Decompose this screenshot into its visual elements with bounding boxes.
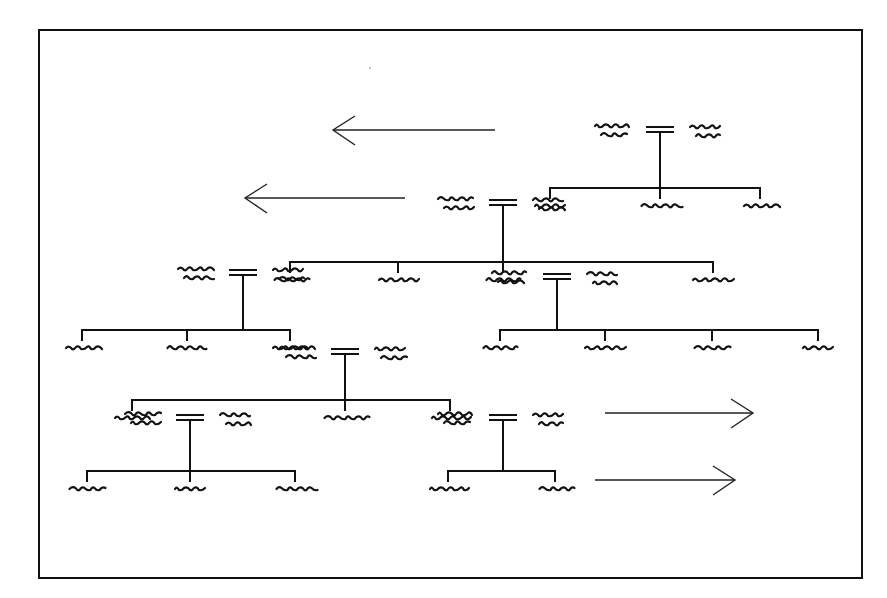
name-scribble	[492, 271, 526, 274]
name-scribble	[115, 416, 150, 419]
name-scribble	[696, 134, 720, 137]
name-scribble	[325, 416, 370, 419]
diagram-frame	[39, 30, 862, 578]
name-scribble	[533, 198, 563, 201]
name-scribble	[539, 207, 565, 210]
name-scribble	[286, 355, 316, 358]
name-scribble	[744, 204, 780, 207]
name-scribble	[587, 272, 617, 275]
family-6	[87, 415, 295, 481]
name-scribble	[484, 346, 518, 349]
name-scribble	[438, 412, 472, 415]
name-scribble	[277, 487, 318, 490]
tree-layer	[82, 127, 818, 481]
name-scribble	[690, 125, 720, 128]
name-scribble	[375, 347, 405, 350]
name-scribble	[601, 133, 627, 136]
genealogy-diagram	[0, 0, 887, 598]
name-scribble	[131, 421, 161, 424]
name-scribble	[539, 422, 563, 425]
name-scribble	[226, 422, 251, 425]
name-scribble	[70, 487, 106, 490]
name-scribble	[66, 346, 102, 349]
family-2	[290, 200, 713, 272]
name-scribble	[642, 204, 683, 207]
name-scribble	[803, 346, 833, 349]
name-scribble	[175, 487, 205, 490]
family-3	[82, 270, 290, 340]
arrow-left-icon	[245, 184, 405, 213]
name-scribble	[178, 267, 214, 270]
arrow-right-icon	[605, 399, 753, 428]
name-scribble	[381, 356, 407, 359]
name-scribble	[444, 421, 470, 424]
name-scribble	[438, 197, 473, 200]
name-scribble	[540, 487, 575, 490]
name-scribble	[273, 268, 303, 271]
name-scribble	[168, 346, 207, 349]
speck	[369, 67, 371, 69]
name-scribble	[487, 278, 521, 281]
name-scribbles-layer	[66, 124, 833, 490]
name-scribble	[379, 278, 419, 281]
name-scribble	[432, 416, 471, 419]
name-scribble	[220, 413, 250, 416]
arrow-right-icon	[595, 466, 735, 495]
name-scribble	[533, 413, 563, 416]
arrow-left-icon	[333, 116, 495, 145]
name-scribble	[695, 346, 731, 349]
name-scribble	[585, 346, 626, 349]
name-scribble	[444, 206, 474, 209]
name-scribble	[184, 276, 214, 279]
name-scribble	[693, 278, 734, 281]
family-1	[550, 127, 760, 198]
name-scribble	[498, 280, 524, 283]
name-scribble	[125, 412, 161, 415]
name-scribble	[430, 487, 469, 490]
arrows-layer	[245, 116, 753, 495]
name-scribble	[595, 124, 629, 127]
name-scribble	[593, 281, 617, 284]
family-4	[500, 274, 818, 340]
